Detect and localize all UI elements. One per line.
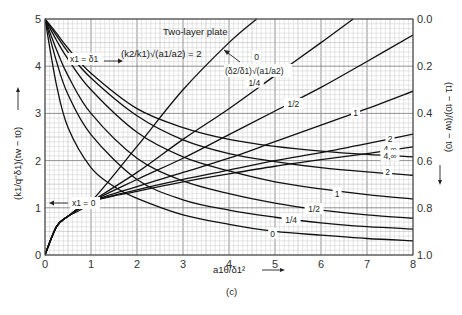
y-axis-right-title: (t1 − t0)/(tw − t0) (444, 82, 455, 152)
x-axis-title: a1θ/δ1² (213, 264, 245, 275)
parameter-label: (δ2/δ1)√(a1/a2) (225, 66, 284, 76)
arrow-head-icon (16, 87, 20, 92)
curve-label: 4,∞ (383, 151, 396, 161)
curve-label: 0 (270, 229, 275, 239)
x1-delta-label: x1 = δ1 (70, 54, 98, 64)
y-axis-left-title: (k1/q''δ1)(tw − t0) (12, 127, 23, 200)
x-tick-label: 3 (180, 258, 186, 270)
y-right-tick-label: 0.8 (417, 202, 432, 214)
curve-label: 0 (254, 52, 259, 62)
x-tick-label: 0 (42, 258, 48, 270)
curve-label: 1/2 (287, 99, 299, 109)
chart: 0123456780123451.00.80.60.40.20.0 01/41/… (0, 0, 462, 315)
curve-label: 1 (353, 108, 358, 118)
arrow-head-icon (280, 268, 285, 272)
curve-label: 1 (335, 189, 340, 199)
annotation-x1-delta: x1 = δ1 (68, 53, 123, 65)
y-left-tick-label: 4 (35, 60, 41, 72)
y-left-tick-label: 0 (35, 249, 41, 261)
x-tick-label: 6 (318, 258, 324, 270)
y-right-tick-label: 0.6 (417, 155, 432, 167)
y-left-tick-label: 3 (35, 107, 41, 119)
curve-label: 1/4 (248, 78, 260, 88)
arrow-head-icon (438, 180, 442, 185)
x-tick-label: 2 (134, 258, 140, 270)
chart-title: Two-layer plate (163, 26, 227, 37)
y-left-tick-label: 2 (35, 155, 41, 167)
y-right-tick-label: 0.0 (417, 13, 432, 25)
y-right-tick-label: 0.2 (417, 60, 432, 72)
panel-label: (c) (226, 286, 237, 297)
y-left-tick-label: 5 (35, 13, 41, 25)
chart-subtitle: (k2/k1)√(a1/a2) = 2 (121, 48, 201, 59)
curve-label: 2 (385, 167, 390, 177)
curve-label: 1/4 (285, 215, 297, 225)
x-tick-label: 7 (364, 258, 370, 270)
y-right-tick-label: 1.0 (417, 249, 432, 261)
arrow-head-icon (118, 59, 123, 64)
annotation-x1-zero: x1 = 0 (49, 197, 100, 209)
y-right-tick-label: 0.4 (417, 107, 432, 119)
x-tick-label: 5 (272, 258, 278, 270)
x-tick-label: 8 (410, 258, 416, 270)
x-tick-label: 1 (88, 258, 94, 270)
curve-label: 1/2 (308, 204, 320, 214)
x1-zero-label: x1 = 0 (72, 198, 96, 208)
y-left-tick-label: 1 (35, 202, 41, 214)
